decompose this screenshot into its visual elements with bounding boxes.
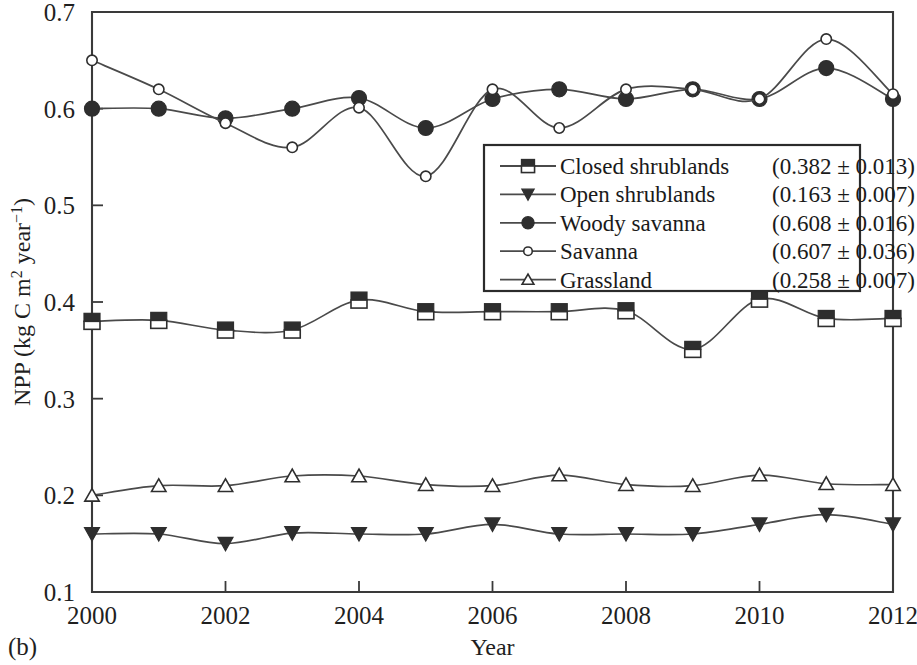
marker-circle-open-icon <box>487 84 497 94</box>
series-woody-savanna <box>85 61 901 136</box>
marker-circle-open-icon <box>888 89 898 99</box>
marker-circle-open-icon <box>87 55 97 65</box>
legend-item[interactable]: Open shrublands(0.163 ± 0.007) <box>500 182 915 207</box>
marker-square-bottom-icon <box>685 349 701 357</box>
marker-square-top-icon <box>418 304 434 312</box>
marker-circle-filled-icon <box>552 82 567 97</box>
x-tick-label: 2012 <box>868 602 917 629</box>
marker-square-top-icon <box>685 341 701 349</box>
marker-circle-filled-icon <box>522 217 534 229</box>
legend-series-stat: (0.258 ± 0.007) <box>772 268 915 293</box>
marker-circle-open-icon <box>688 84 698 94</box>
marker-square-bottom-icon <box>818 318 834 326</box>
marker-square-bottom-icon <box>618 311 634 319</box>
y-tick-label: 0.6 <box>44 96 75 123</box>
y-tick-label: 0.3 <box>44 386 75 413</box>
x-axis-title: Year <box>470 634 514 660</box>
y-tick-label: 0.4 <box>44 289 76 316</box>
figure-panel: 0.10.20.30.40.50.60.72000200220042006200… <box>0 0 917 665</box>
marker-square-bottom-icon <box>485 312 501 320</box>
y-axis-title: NPP (kg C m2 year−1) <box>8 198 35 406</box>
marker-square-bottom-icon <box>551 312 567 320</box>
marker-square-top-icon <box>521 159 534 166</box>
y-tick-label: 0.7 <box>44 0 75 26</box>
legend-series-name: Closed shrublands <box>560 154 729 179</box>
series-open-shrublands <box>85 508 901 551</box>
marker-circle-open-icon <box>220 118 230 128</box>
marker-square-top-icon <box>284 322 300 330</box>
marker-square-top-icon <box>151 312 167 320</box>
legend: Closed shrublands(0.382 ± 0.013)Open shr… <box>484 145 915 293</box>
legend-series-name: Woody savanna <box>560 211 706 236</box>
marker-circle-open-icon <box>524 247 533 256</box>
marker-square-top-icon <box>218 322 234 330</box>
marker-circle-open-icon <box>554 123 564 133</box>
marker-square-top-icon <box>618 303 634 311</box>
marker-square-bottom-icon <box>84 321 100 329</box>
x-tick-label: 2002 <box>201 602 251 629</box>
x-tick-label: 2006 <box>468 602 518 629</box>
marker-circle-open-icon <box>754 94 764 104</box>
legend-series-name: Savanna <box>560 239 638 264</box>
marker-circle-open-icon <box>354 103 364 113</box>
marker-square-top-icon <box>485 304 501 312</box>
marker-circle-filled-icon <box>151 101 166 116</box>
marker-square-top-icon <box>885 310 901 318</box>
legend-item[interactable]: Closed shrublands(0.382 ± 0.013) <box>500 154 915 179</box>
marker-circle-open-icon <box>821 34 831 44</box>
x-tick-label: 2004 <box>334 602 385 629</box>
npp-line-chart: 0.10.20.30.40.50.60.72000200220042006200… <box>0 0 917 665</box>
series-closed-shrublands <box>84 291 901 357</box>
legend-series-stat: (0.163 ± 0.007) <box>772 182 915 207</box>
marker-square-bottom-icon <box>418 312 434 320</box>
marker-circle-filled-icon <box>285 101 300 116</box>
marker-circle-open-icon <box>421 171 431 181</box>
legend-series-stat: (0.607 ± 0.036) <box>772 239 915 264</box>
panel-label: (b) <box>8 633 37 661</box>
marker-square-bottom-icon <box>284 330 300 338</box>
series-grassland <box>85 468 900 501</box>
marker-square-bottom-icon <box>752 299 768 307</box>
marker-square-top-icon <box>551 304 567 312</box>
marker-square-bottom-icon <box>218 330 234 338</box>
marker-square-bottom-icon <box>351 300 367 308</box>
marker-square-bottom-icon <box>885 318 901 326</box>
legend-series-stat: (0.608 ± 0.016) <box>772 211 915 236</box>
x-tick-label: 2008 <box>601 602 651 629</box>
legend-series-name: Open shrublands <box>560 182 715 207</box>
marker-square-top-icon <box>818 310 834 318</box>
legend-series-stat: (0.382 ± 0.013) <box>772 154 915 179</box>
x-tick-label: 2000 <box>67 602 117 629</box>
marker-circle-filled-icon <box>418 121 433 136</box>
legend-series-name: Grassland <box>560 268 652 293</box>
marker-circle-open-icon <box>287 142 297 152</box>
y-tick-label: 0.5 <box>44 192 75 219</box>
marker-circle-open-icon <box>621 84 631 94</box>
marker-square-bottom-icon <box>521 166 534 173</box>
marker-circle-open-icon <box>154 84 164 94</box>
x-tick-label: 2010 <box>735 602 785 629</box>
marker-square-top-icon <box>752 291 768 299</box>
marker-circle-filled-icon <box>85 101 100 116</box>
marker-triangle-down-icon <box>886 518 901 532</box>
marker-square-bottom-icon <box>151 320 167 328</box>
y-tick-label: 0.2 <box>44 482 75 509</box>
marker-square-top-icon <box>351 292 367 300</box>
marker-square-top-icon <box>84 313 100 321</box>
marker-circle-filled-icon <box>819 61 834 76</box>
